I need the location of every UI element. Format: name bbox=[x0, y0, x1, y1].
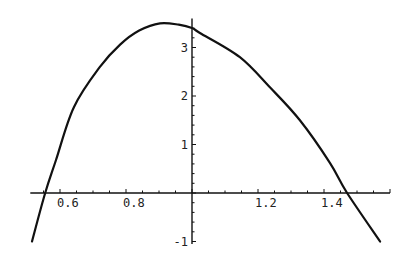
x-tick-label: 1.2 bbox=[255, 196, 277, 210]
x-tick-label: 1.4 bbox=[321, 196, 343, 210]
axes bbox=[30, 18, 390, 244]
y-tick-label: -1 bbox=[174, 235, 188, 249]
y-tick-label: 1 bbox=[181, 138, 188, 152]
y-tick-label: 2 bbox=[181, 89, 188, 103]
x-tick-label: 0.6 bbox=[57, 196, 79, 210]
y-tick-label: 3 bbox=[181, 41, 188, 55]
tick-labels: 0.60.81.21.4-1123 bbox=[57, 41, 343, 249]
chart: 0.60.81.21.4-1123 bbox=[0, 0, 409, 259]
x-tick-label: 0.8 bbox=[123, 196, 145, 210]
